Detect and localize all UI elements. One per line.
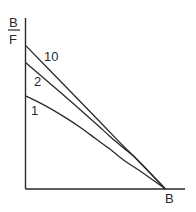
curve-1: [26, 96, 166, 189]
x-label: B: [165, 191, 174, 206]
y-label-denominator: F: [9, 32, 17, 47]
curve-label-1: 1: [31, 103, 38, 118]
curve-label-2: 2: [34, 74, 41, 89]
scatchard-diagram: B F B 10 2 1: [0, 0, 196, 212]
curve-label-10: 10: [44, 49, 58, 64]
curve-2: [26, 62, 166, 189]
y-label-numerator: B: [9, 15, 18, 30]
